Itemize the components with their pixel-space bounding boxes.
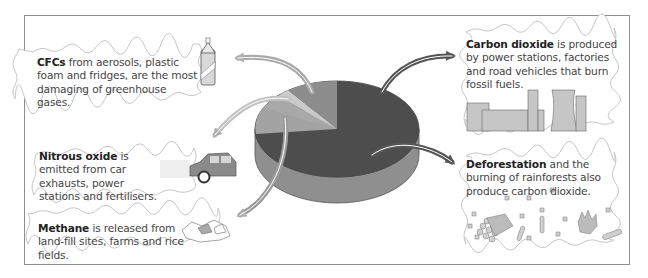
spray-can-icon [201,38,215,85]
callout-methane: Methane is released from land-fill sites… [38,222,184,262]
callout-deforestation-title: Deforestation [466,158,546,170]
callout-carbon-dioxide: Carbon dioxide is produced by power stat… [466,38,624,92]
callout-nitrous-oxide: Nitrous oxide is emitted from car exhaus… [39,150,157,204]
callout-cfcs-title: CFCs [37,56,66,68]
callout-co2-title: Carbon dioxide [466,38,554,50]
callout-cfcs: CFCs from aerosols, plastic foam and fri… [37,56,199,110]
callout-deforestation: Deforestation and the burning of rainfor… [466,158,624,198]
callout-methane-title: Methane [38,222,89,234]
callout-nitrous-title: Nitrous oxide [39,150,117,162]
